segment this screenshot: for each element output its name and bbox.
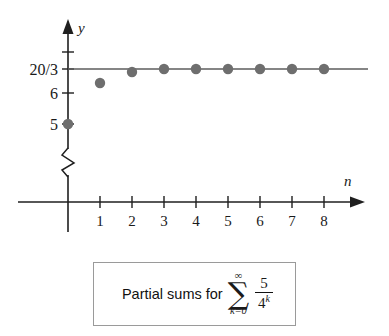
data-point <box>255 64 265 74</box>
y-axis-label: y <box>76 20 85 36</box>
data-point <box>159 64 169 74</box>
denominator-base: 4 <box>258 295 266 311</box>
summation-symbol: ∞ ∑ k=0 <box>228 271 249 317</box>
summation-lower-limit: k=0 <box>230 306 247 317</box>
x-axis <box>18 197 365 208</box>
fraction-numerator: 5 <box>257 276 271 292</box>
data-points <box>63 64 329 129</box>
figure-container: 20/3 6 5 1 2 3 4 5 6 7 8 y n Partial sum… <box>0 0 389 336</box>
x-axis-arrowhead <box>350 197 365 208</box>
x-tick-label-2: 2 <box>128 213 136 229</box>
fraction-denominator: 4k <box>255 293 273 311</box>
y-tick-label-5: 5 <box>50 116 58 133</box>
data-point <box>287 64 297 74</box>
data-point <box>191 64 201 74</box>
x-tick-label-7: 7 <box>288 213 296 229</box>
data-point <box>127 67 137 77</box>
x-tick-label-3: 3 <box>160 213 168 229</box>
caption-inner: Partial sums for ∞ ∑ k=0 5 4k <box>116 271 273 317</box>
y-tick-label-6: 6 <box>50 85 58 102</box>
y-axis-break-symbol <box>62 148 74 177</box>
caption-box: Partial sums for ∞ ∑ k=0 5 4k <box>93 262 296 326</box>
x-tick-label-1: 1 <box>96 213 104 229</box>
x-tick-label-5: 5 <box>224 213 232 229</box>
caption-text: Partial sums for <box>122 286 223 302</box>
data-point <box>63 119 73 129</box>
data-point <box>95 78 105 88</box>
x-tick-label-4: 4 <box>192 213 200 229</box>
x-axis-label: n <box>344 173 352 189</box>
sigma-glyph: ∑ <box>228 281 249 307</box>
data-point <box>223 64 233 74</box>
y-tick-label-20-3: 20/3 <box>30 61 58 78</box>
summand-fraction: 5 4k <box>255 276 273 311</box>
x-tick-label-8: 8 <box>320 213 328 229</box>
denominator-exponent: k <box>266 293 270 304</box>
data-point <box>319 64 329 74</box>
x-tick-label-6: 6 <box>256 213 264 229</box>
y-axis-arrowhead <box>63 19 74 34</box>
